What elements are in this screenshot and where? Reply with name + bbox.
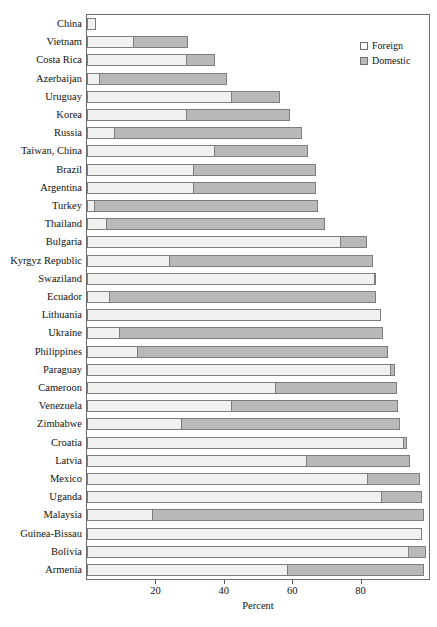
x-axis-tick-label: 40 [219,585,230,597]
bar-segment-foreign [87,346,137,358]
bars-layer [87,15,429,579]
stacked-bar [87,418,400,430]
bar-segment-foreign [87,127,114,139]
bar-segment-domestic [403,437,406,449]
stacked-bar [87,182,316,194]
bar-segment-domestic [408,546,425,558]
legend-swatch-domestic-icon [360,57,368,65]
bar-row [87,291,429,303]
y-axis-tick-label: China [0,18,82,29]
y-axis-tick-label: Costa Rica [0,54,82,65]
bar-segment-foreign [87,491,381,503]
y-axis-tick-label: Ukraine [0,327,82,338]
stacked-bar [87,364,395,376]
bar-segment-domestic [109,291,376,303]
bar-segment-foreign [87,546,408,558]
bar-segment-domestic [152,509,424,521]
stacked-bar [87,91,280,103]
bar-row [87,236,429,248]
y-axis-tick-label: Zimbabwe [0,418,82,429]
stacked-bar [87,327,383,339]
bar-segment-foreign [87,145,214,157]
bar-segment-foreign [87,236,340,248]
y-axis-tick-label: Bolivia [0,546,82,557]
bar-segment-foreign [87,309,381,321]
stacked-bar [87,255,373,267]
bar-segment-domestic [94,200,318,212]
legend-swatch-foreign-icon [360,42,368,50]
bar-segment-foreign [87,91,231,103]
bar-segment-domestic [231,400,399,412]
bar-segment-foreign [87,528,422,540]
x-axis-tick [292,580,293,584]
y-axis-tick-label: Malaysia [0,509,82,520]
bar-segment-domestic [181,418,400,430]
bar-segment-foreign [87,109,186,121]
y-axis-tick-label: Kyrgyz Republic [0,255,82,266]
bar-row [87,255,429,267]
y-axis-tick-label: Mexico [0,473,82,484]
bar-segment-foreign [87,418,181,430]
bar-row [87,109,429,121]
stacked-bar [87,346,388,358]
stacked-bar [87,564,424,576]
bar-row [87,18,429,30]
bar-segment-foreign [87,455,306,467]
stacked-bar [87,164,316,176]
bar-row [87,509,429,521]
stacked-bar [87,236,367,248]
bar-row [87,364,429,376]
stacked-bar [87,36,188,48]
bar-segment-foreign [87,400,231,412]
bar-segment-domestic [340,236,367,248]
y-axis-tick-label: Brazil [0,164,82,175]
stacked-bar [87,437,407,449]
bar-row [87,164,429,176]
bar-segment-domestic [306,455,410,467]
x-axis-tick-label: 20 [150,585,161,597]
y-axis-category-labels: ChinaVietnamCosta RicaAzerbaijanUruguayK… [0,15,82,579]
stacked-bar [87,73,227,85]
legend-item-foreign: Foreign [360,39,410,52]
y-axis-tick-label: Philippines [0,346,82,357]
bar-segment-domestic [106,218,325,230]
bar-row [87,455,429,467]
bar-row [87,327,429,339]
bar-segment-domestic [381,491,422,503]
x-axis-title: Percent [86,600,430,611]
bar-segment-domestic [119,327,382,339]
stacked-bar [87,473,420,485]
bar-segment-domestic [390,364,395,376]
y-axis-tick-label: Guinea-Bissau [0,528,82,539]
legend-label-foreign: Foreign [372,39,403,52]
stacked-bar [87,455,410,467]
stacked-bar [87,200,318,212]
x-axis-tick [361,580,362,584]
bar-segment-domestic [137,346,388,358]
bar-row [87,309,429,321]
y-axis-tick-label: Uruguay [0,91,82,102]
bar-row [87,200,429,212]
bar-row [87,564,429,576]
bar-segment-domestic [114,127,302,139]
bar-segment-foreign [87,182,193,194]
y-axis-tick-label: Venezuela [0,400,82,411]
bar-row [87,528,429,540]
y-axis-tick-label: Azerbaijan [0,73,82,84]
bar-segment-domestic [169,255,372,267]
legend-label-domestic: Domestic [372,54,410,67]
x-axis-tick [224,580,225,584]
stacked-bar [87,127,302,139]
bar-segment-foreign [87,509,152,521]
bar-segment-domestic [367,473,420,485]
y-axis-tick-label: Lithuania [0,309,82,320]
y-axis-tick-label: Russia [0,127,82,138]
bar-segment-domestic [287,564,424,576]
bar-row [87,182,429,194]
y-axis-tick-label: Cameroon [0,382,82,393]
bar-segment-domestic [133,36,188,48]
bar-row [87,473,429,485]
x-axis-tick-label: 60 [287,585,298,597]
bar-segment-foreign [87,327,119,339]
bar-segment-foreign [87,36,133,48]
